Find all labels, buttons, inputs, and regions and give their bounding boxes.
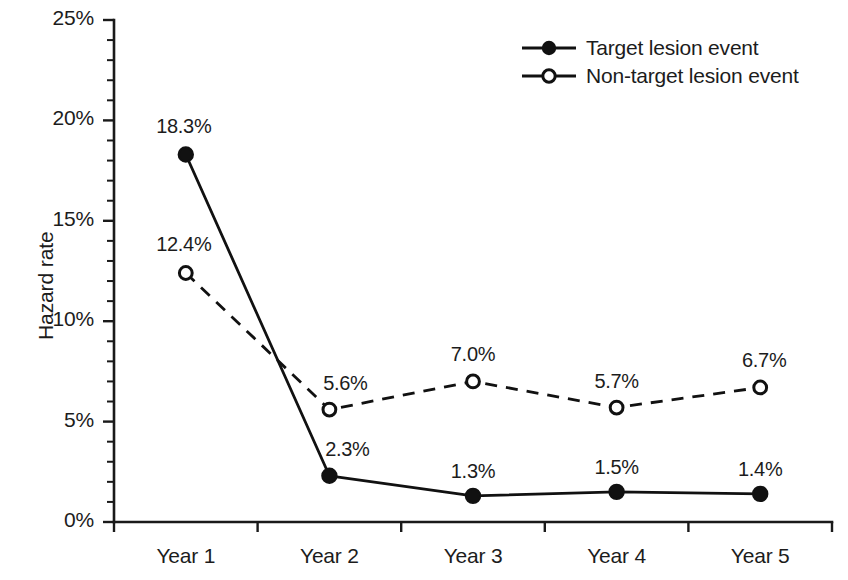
- x-axis-ticks: [114, 522, 832, 532]
- data-point-label: 2.3%: [287, 438, 407, 461]
- legend-item-target[interactable]: Target lesion event: [520, 34, 799, 62]
- data-point-label: 5.7%: [557, 370, 677, 393]
- hazard-rate-chart: 0%5%10%15%20%25% Year 1Year 2Year 3Year …: [0, 0, 848, 580]
- data-point-label: 7.0%: [413, 343, 533, 366]
- legend-label-non-target: Non-target lesion event: [586, 64, 799, 88]
- legend-item-non-target[interactable]: Non-target lesion event: [520, 62, 799, 90]
- series-line-target: [186, 155, 760, 496]
- data-point-marker[interactable]: [179, 147, 193, 161]
- x-tick-label: Year 5: [690, 544, 830, 568]
- data-point-marker[interactable]: [323, 403, 336, 416]
- legend-key-filled-circle: [520, 37, 578, 59]
- data-point-label: 1.5%: [557, 456, 677, 479]
- y-tick-label: 5%: [0, 408, 94, 432]
- data-point-label: 12.4%: [124, 233, 244, 256]
- chart-legend: Target lesion event Non-target lesion ev…: [520, 34, 799, 90]
- x-tick-label: Year 3: [403, 544, 543, 568]
- data-point-marker[interactable]: [466, 489, 480, 503]
- data-point-label: 1.3%: [413, 460, 533, 483]
- data-point-marker[interactable]: [753, 487, 767, 501]
- y-tick-label: 20%: [0, 106, 94, 130]
- y-tick-label: 0%: [0, 508, 94, 532]
- x-tick-label: Year 1: [116, 544, 256, 568]
- y-axis-title: Hazard rate: [34, 231, 58, 340]
- data-point-label: 6.7%: [704, 349, 824, 372]
- data-point-label: 5.6%: [285, 372, 405, 395]
- legend-label-target: Target lesion event: [586, 36, 758, 60]
- data-point-label: 18.3%: [124, 115, 244, 138]
- y-tick-label: 25%: [0, 6, 94, 30]
- data-point-marker[interactable]: [322, 469, 336, 483]
- data-point-marker[interactable]: [610, 401, 623, 414]
- chart-axes: [103, 20, 832, 532]
- y-axis-major-ticks: [103, 20, 114, 522]
- x-tick-label: Year 4: [547, 544, 687, 568]
- data-point-marker[interactable]: [467, 375, 480, 388]
- legend-key-open-circle: [520, 65, 578, 87]
- data-point-label: 1.4%: [700, 458, 820, 481]
- y-tick-label: 15%: [0, 207, 94, 231]
- chart-series-group: [179, 147, 768, 503]
- data-point-marker[interactable]: [609, 485, 623, 499]
- data-point-marker[interactable]: [179, 267, 192, 280]
- x-tick-label: Year 2: [259, 544, 399, 568]
- data-point-marker[interactable]: [754, 381, 767, 394]
